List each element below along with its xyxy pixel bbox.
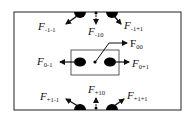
arrow-F-1-1	[66, 16, 77, 24]
force-diagram: F-1-1 F-10 F-1+1 F00 F0-1 F0+1 F+1-1 F+1…	[0, 0, 186, 124]
label-F-10: F-10	[87, 25, 103, 38]
label-F+1+1: F+1+1	[126, 89, 148, 102]
top-particles	[74, 12, 118, 19]
arrow-F+1+1	[114, 99, 124, 106]
label-F00: F00	[130, 37, 143, 50]
arrow-F-1+1	[114, 16, 121, 24]
label-F0-1: F0-1	[36, 55, 52, 68]
label-F-1+1: F-1+1	[123, 19, 143, 32]
label-F+1-1: F+1-1	[39, 90, 59, 103]
label-F+10: F+10	[87, 83, 105, 96]
inner-particle-right	[104, 58, 116, 67]
label-F-1-1: F-1-1	[37, 20, 56, 33]
inner-particle-left	[74, 58, 86, 67]
label-F0+1: F0+1	[131, 57, 149, 70]
arrow-F+1-1	[66, 99, 78, 106]
